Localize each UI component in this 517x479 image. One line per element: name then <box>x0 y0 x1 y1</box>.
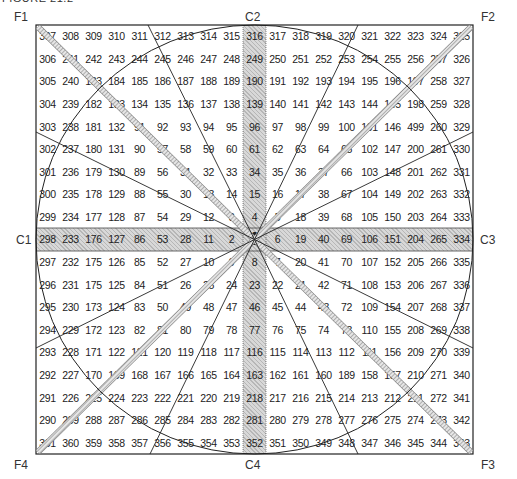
grid-cell: 70 <box>335 251 358 274</box>
grid-cell: 7 <box>266 251 289 274</box>
label-f1: F1 <box>14 10 28 24</box>
grid-cell: 6 <box>266 228 289 251</box>
grid-cell: 276 <box>358 409 381 432</box>
grid-cell: 227 <box>59 364 82 387</box>
grid-cell: 160 <box>312 364 335 387</box>
grid-cell: 5 <box>266 206 289 229</box>
grid-cell: 44 <box>289 296 312 319</box>
grid-cell: 204 <box>404 228 427 251</box>
grid-cell: 178 <box>82 183 105 206</box>
grid-cell: 87 <box>128 206 151 229</box>
grid-cell: 34 <box>243 160 266 183</box>
grid-cell: 55 <box>151 183 174 206</box>
grid-cell: 155 <box>381 319 404 342</box>
grid-cell: 175 <box>82 273 105 296</box>
grid-cell: 128 <box>105 206 128 229</box>
grid-cell: 300 <box>36 183 59 206</box>
grid-cell: 141 <box>289 93 312 116</box>
grid-cell: 244 <box>128 48 151 71</box>
grid-cell: 306 <box>36 48 59 71</box>
grid-cell: 97 <box>266 115 289 138</box>
grid-cell: 183 <box>82 70 105 93</box>
grid-cell: 50 <box>151 296 174 319</box>
grid-cell: 329 <box>450 115 473 138</box>
grid-cell: 237 <box>59 138 82 161</box>
grid-cell: 48 <box>197 296 220 319</box>
grid-cell: 29 <box>174 206 197 229</box>
grid-cell: 163 <box>243 364 266 387</box>
grid-cell: 261 <box>427 138 450 161</box>
grid-cell: 20 <box>289 251 312 274</box>
grid-cell: 356 <box>151 431 174 454</box>
grid-cell: 56 <box>151 160 174 183</box>
grid-cell: 66 <box>335 160 358 183</box>
grid-cell: 210 <box>404 364 427 387</box>
grid-cell: 197 <box>404 70 427 93</box>
grid-cell: 225 <box>82 386 105 409</box>
grid-cell: 88 <box>128 183 151 206</box>
grid-cell: 96 <box>243 115 266 138</box>
grid-cell: 215 <box>312 386 335 409</box>
grid-cell: 121 <box>128 341 151 364</box>
grid-cell: 321 <box>358 25 381 48</box>
grid-cell: 22 <box>266 273 289 296</box>
grid-cell: 16 <box>266 183 289 206</box>
grid-cell: 27 <box>174 251 197 274</box>
grid-cell: 132 <box>105 115 128 138</box>
grid-cell: 359 <box>82 431 105 454</box>
grid-cell: 17 <box>289 183 312 206</box>
grid-cell: 162 <box>266 364 289 387</box>
grid-cell: 229 <box>59 319 82 342</box>
grid-cell: 127 <box>105 228 128 251</box>
grid-cell: 354 <box>197 431 220 454</box>
grid-cell: 223 <box>128 386 151 409</box>
grid-cell: 168 <box>128 364 151 387</box>
grid-cell: 228 <box>59 341 82 364</box>
grid-cell: 106 <box>358 228 381 251</box>
grid-cell: 47 <box>220 296 243 319</box>
label-c1: C1 <box>16 233 31 247</box>
grid-cell: 95 <box>220 115 243 138</box>
grid-cell: 123 <box>105 319 128 342</box>
grid-cell: 172 <box>82 319 105 342</box>
grid-cell: 270 <box>427 341 450 364</box>
grid-cell: 45 <box>266 296 289 319</box>
grid-cell: 11 <box>197 228 220 251</box>
grid-cell: 337 <box>450 296 473 319</box>
grid-cell: 287 <box>105 409 128 432</box>
grid-cell: 90 <box>128 138 151 161</box>
grid-cell: 28 <box>174 228 197 251</box>
grid-cell: 333 <box>450 206 473 229</box>
grid-cell: 324 <box>427 25 450 48</box>
grid-cell: 10 <box>197 251 220 274</box>
grid-cell: 112 <box>335 341 358 364</box>
grid-cell: 212 <box>381 386 404 409</box>
grid-cell: 275 <box>381 409 404 432</box>
grid-cell: 150 <box>381 206 404 229</box>
grid-cell: 103 <box>358 160 381 183</box>
grid-cell: 125 <box>105 273 128 296</box>
grid-cell: 330 <box>450 138 473 161</box>
grid-cell: 31 <box>174 160 197 183</box>
grid-cell: 302 <box>36 138 59 161</box>
grid-cell: 208 <box>404 319 427 342</box>
grid-cell: 158 <box>358 364 381 387</box>
grid-cell: 102 <box>358 138 381 161</box>
grid-cell: 355 <box>174 431 197 454</box>
grid-cell: 323 <box>404 25 427 48</box>
grid-cell: 25 <box>197 273 220 296</box>
grid-cell: 239 <box>59 93 82 116</box>
grid-cell: 216 <box>289 386 312 409</box>
grid-cell: 296 <box>36 273 59 296</box>
grid-cell: 173 <box>82 296 105 319</box>
grid-cell: 59 <box>197 138 220 161</box>
grid-cell: 46 <box>243 296 266 319</box>
grid-cell: 14 <box>220 183 243 206</box>
grid-cell: 293 <box>36 341 59 364</box>
grid-cell: 320 <box>335 25 358 48</box>
grid-cell: 75 <box>289 319 312 342</box>
grid-cell: 86 <box>128 228 151 251</box>
grid-cell: 24 <box>220 273 243 296</box>
grid-cell: 268 <box>427 296 450 319</box>
grid-cell: 83 <box>128 296 151 319</box>
